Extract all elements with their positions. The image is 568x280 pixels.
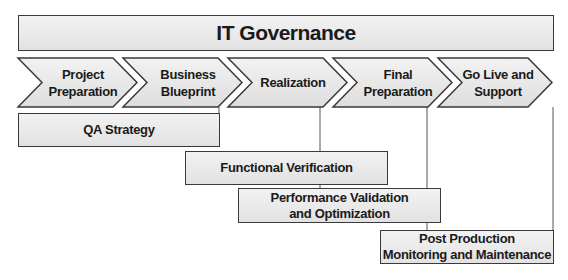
phase-label-project-preparation: Project Preparation <box>38 58 128 107</box>
it-governance-title: IT Governance <box>216 25 355 41</box>
activity-performance-validation: Performance Validation and Optimization <box>238 188 441 223</box>
activity-functional-verification: Functional Verification <box>185 151 388 185</box>
phase-label-final-preparation: Final Preparation <box>353 58 443 107</box>
activity-label: Post Production Monitoring and Maintenan… <box>383 231 551 263</box>
it-governance-bar: IT Governance <box>18 15 554 51</box>
activity-post-production: Post Production Monitoring and Maintenan… <box>380 230 554 264</box>
activity-label: QA Strategy <box>83 122 154 138</box>
phase-label-go-live-support: Go Live and Support <box>456 58 540 107</box>
diagram-canvas: IT Governance Project Preparation Busine… <box>0 0 568 280</box>
activity-qa-strategy: QA Strategy <box>18 113 220 147</box>
phase-label-business-blueprint: Business Blueprint <box>143 58 233 107</box>
activity-label: Performance Validation and Optimization <box>271 190 409 222</box>
phase-label-realization: Realization <box>248 58 338 107</box>
activity-label: Functional Verification <box>220 160 353 176</box>
